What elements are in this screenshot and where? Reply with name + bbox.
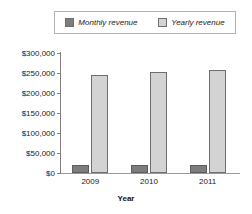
legend-label-yearly: Yearly revenue xyxy=(171,19,224,27)
bar-group xyxy=(120,53,179,173)
x-tick-label-2011: 2011 xyxy=(178,178,237,186)
bar-yearly-revenue-2010 xyxy=(150,72,167,173)
y-tick-label: $250,000 xyxy=(22,70,55,78)
bar-monthly-revenue-2009 xyxy=(72,165,89,173)
bar-yearly-revenue-2011 xyxy=(209,70,226,173)
revenue-bar-chart: Monthly revenue Yearly revenue $300,000$… xyxy=(0,0,252,214)
bar-yearly-revenue-2009 xyxy=(91,75,108,173)
legend-item-yearly-revenue: Yearly revenue xyxy=(158,18,224,27)
chart-legend: Monthly revenue Yearly revenue xyxy=(54,11,236,34)
y-tick-label: $50,000 xyxy=(26,150,55,158)
y-tick-label: $300,000 xyxy=(22,50,55,58)
bar-group xyxy=(61,53,120,173)
x-tick-label-2010: 2010 xyxy=(120,178,179,186)
y-tick-label: $200,000 xyxy=(22,90,55,98)
y-tick-label: $0 xyxy=(46,170,55,178)
legend-label-monthly: Monthly revenue xyxy=(78,19,137,27)
legend-swatch-yearly-icon xyxy=(158,18,167,27)
legend-swatch-monthly-icon xyxy=(65,18,74,27)
y-tick-label: $100,000 xyxy=(22,130,55,138)
x-axis-title: Year xyxy=(0,195,252,203)
bar-monthly-revenue-2010 xyxy=(131,165,148,173)
bar-group xyxy=(178,53,237,173)
bar-monthly-revenue-2011 xyxy=(190,165,207,173)
x-axis-line xyxy=(60,173,240,174)
legend-item-monthly-revenue: Monthly revenue xyxy=(65,18,137,27)
y-tick-label: $150,000 xyxy=(22,110,55,118)
x-tick-label-2009: 2009 xyxy=(61,178,120,186)
plot-area xyxy=(61,53,237,173)
